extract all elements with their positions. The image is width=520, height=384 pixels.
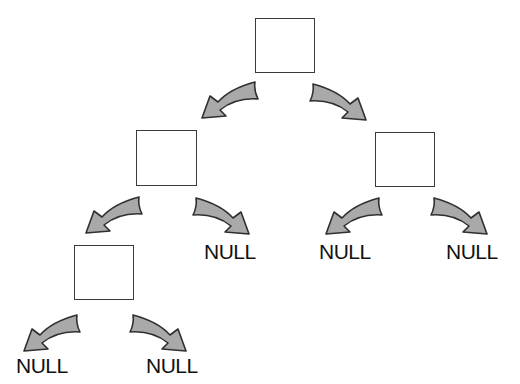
arrow-root-right-to-right-icon [431, 196, 489, 236]
null-label-root-left-left-left: NULL [16, 355, 68, 376]
tree-node-root-left [136, 130, 197, 186]
tree-node-root [255, 18, 315, 73]
null-label-root-right-right: NULL [446, 241, 498, 262]
arrow-root-left-to-right-icon [193, 196, 251, 236]
null-label-root-left-right: NULL [204, 241, 256, 262]
arrow-root-left-left-to-right-icon [130, 313, 188, 353]
arrow-root-to-left-icon [200, 80, 258, 120]
arrow-root-left-to-left-icon [84, 195, 142, 235]
arrow-root-to-right-icon [310, 82, 368, 122]
tree-node-root-right [375, 132, 435, 187]
null-label-root-left-left-right: NULL [146, 355, 198, 376]
arrow-root-right-to-left-icon [324, 196, 382, 236]
null-label-root-right-left: NULL [319, 241, 371, 262]
tree-node-root-left-left [74, 245, 134, 300]
arrow-root-left-left-to-left-icon [22, 313, 80, 353]
